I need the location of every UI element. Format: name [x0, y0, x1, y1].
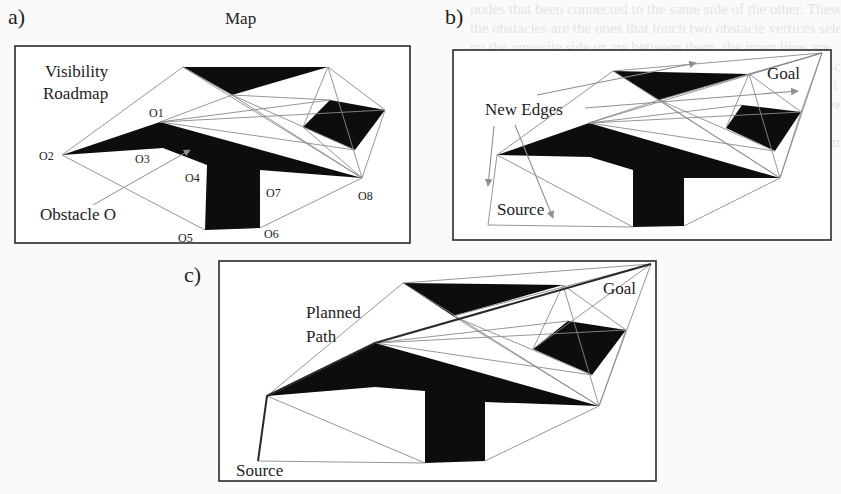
vertex-label-o5: O5	[178, 231, 193, 245]
planned-path-label-1: Planned	[306, 303, 361, 322]
planned-path-label-2: Path	[306, 327, 337, 346]
vertex-label-o1: O1	[149, 106, 164, 120]
obstacle-label: Obstacle O	[40, 205, 116, 224]
vertex-label-o2: O2	[39, 149, 54, 163]
vertex-label-o3: O3	[135, 152, 150, 166]
figure-canvas: Visibility Roadmap Obstacle O O1 O2 O3 O…	[0, 0, 841, 494]
source-label: Source	[497, 200, 544, 219]
roadmap-label-2: Roadmap	[43, 84, 108, 103]
roadmap-label-1: Visibility	[45, 62, 109, 81]
vertex-label-o6: O6	[264, 227, 279, 241]
vertex-label-o4: O4	[185, 171, 200, 185]
panel-b: New Edges Goal Source	[453, 50, 831, 240]
vertex-label-o7: O7	[266, 186, 281, 200]
vertex-label-o8: O8	[358, 189, 373, 203]
new-edges-label: New Edges	[485, 100, 563, 119]
source-label: Source	[236, 461, 283, 480]
goal-label: Goal	[767, 64, 800, 83]
panel-a: Visibility Roadmap Obstacle O O1 O2 O3 O…	[15, 46, 410, 245]
panel-c: Planned Path Goal Source	[219, 261, 656, 481]
goal-label: Goal	[603, 279, 636, 298]
